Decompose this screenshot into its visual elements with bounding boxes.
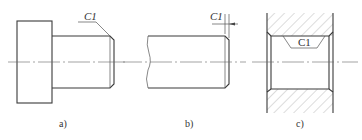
- caption-b: b): [185, 118, 193, 130]
- caption-a: a): [59, 118, 67, 130]
- leader-line: [78, 22, 110, 36]
- chamfer-label: C1: [210, 10, 223, 22]
- chamfer-label: C1: [84, 10, 97, 22]
- break-line: [147, 36, 151, 88]
- panel-b: C1 b): [120, 10, 246, 130]
- caption-c: c): [296, 118, 304, 130]
- chamfer-diagram: C1 a) C1 b) C1 c): [0, 0, 362, 140]
- hatched-section-bottom: [267, 89, 333, 113]
- panel-a: C1 a): [8, 10, 126, 130]
- panel-c: C1 c): [252, 13, 358, 130]
- arrow-icon: [229, 23, 235, 26]
- hatched-section-top: [267, 13, 333, 36]
- chamfer-label: C1: [298, 36, 311, 48]
